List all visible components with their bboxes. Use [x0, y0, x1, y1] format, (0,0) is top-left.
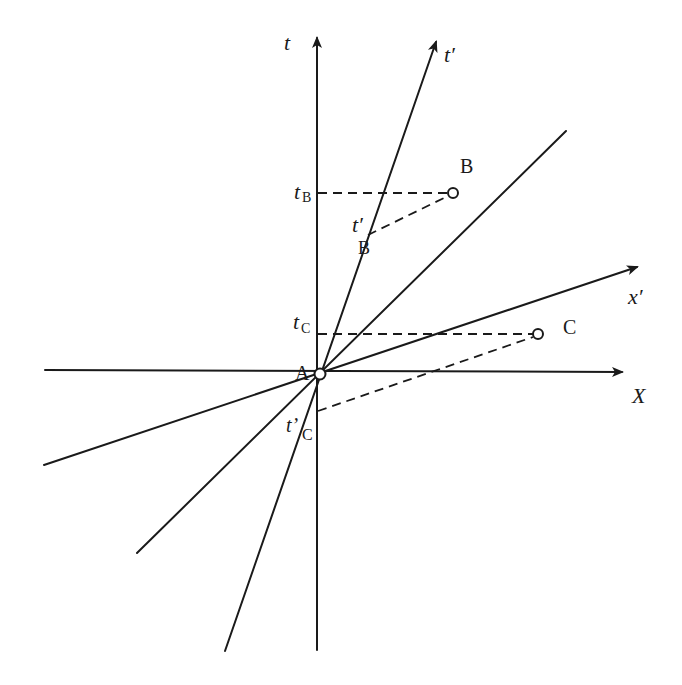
- x-prime-axis-label: x′: [627, 284, 644, 309]
- tprimeB-label-sub: B: [358, 238, 370, 258]
- tprimeB-label-main: t′: [352, 212, 364, 237]
- tC-label-sub: C: [301, 321, 310, 336]
- light-line: [137, 131, 566, 553]
- tprimeC-label-main: t’: [286, 414, 299, 436]
- event-C-label: C: [563, 316, 576, 338]
- t-axis-label: t: [284, 30, 291, 55]
- event-B-label: B: [460, 155, 473, 177]
- tprimeC-projection: [318, 337, 533, 411]
- event-A-label: A: [295, 362, 310, 384]
- event-C-marker: [533, 329, 543, 339]
- event-A-marker: [315, 369, 326, 380]
- x-prime-axis: [44, 267, 637, 465]
- t-prime-axis-label: t′: [444, 42, 456, 67]
- t-prime-axis: [225, 42, 436, 651]
- tprimeC-label-sub: C: [302, 426, 313, 443]
- x-axis-label: X: [631, 383, 647, 408]
- tB-label-sub: B: [302, 190, 311, 205]
- tC-label-main: t: [293, 309, 300, 334]
- spacetime-diagram: t t′ x′ X A B C t B t C t′ B t’ C: [0, 0, 682, 685]
- x-axis: [45, 370, 622, 372]
- tB-label-main: t: [294, 179, 301, 204]
- event-B-marker: [448, 188, 458, 198]
